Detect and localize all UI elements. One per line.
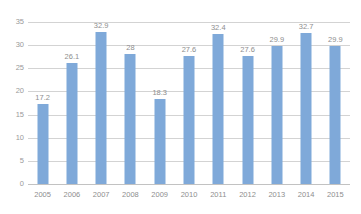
bar-slot: [28, 22, 57, 184]
plot-area: 17.226.132.92818.327.632.427.629.932.729…: [28, 22, 350, 184]
bar[interactable]: [154, 99, 165, 184]
y-axis-tick-label: 15: [4, 111, 24, 119]
bar-slot: [262, 22, 291, 184]
x-axis-tick-label: 2007: [87, 190, 116, 200]
bar-value-label: 29.9: [315, 36, 355, 44]
bar-slot: [291, 22, 320, 184]
x-axis-tick-label: 2010: [174, 190, 203, 200]
bar-slot: [57, 22, 86, 184]
x-axis-tick-label: 2009: [145, 190, 174, 200]
bar[interactable]: [37, 104, 48, 184]
chart-title: [0, 0, 361, 4]
y-axis-tick-label: 20: [4, 87, 24, 95]
bar[interactable]: [183, 56, 194, 184]
bar[interactable]: [242, 56, 253, 184]
y-axis-tick-label: 0: [4, 180, 24, 188]
x-axis-tick-label: 2015: [321, 190, 350, 200]
x-axis-tick-label: 2005: [28, 190, 57, 200]
bar[interactable]: [125, 54, 136, 184]
bar-chart: 05101520253035 17.226.132.92818.327.632.…: [0, 0, 361, 214]
x-axis-tick-label: 2013: [262, 190, 291, 200]
bar[interactable]: [330, 46, 341, 184]
y-axis-tick-label: 10: [4, 134, 24, 142]
bar[interactable]: [271, 46, 282, 184]
bar-slot: [321, 22, 350, 184]
bar[interactable]: [213, 34, 224, 184]
x-axis-tick-label: 2012: [233, 190, 262, 200]
y-axis-tick-label: 35: [4, 18, 24, 26]
x-axis-tick-label: 2011: [204, 190, 233, 200]
x-axis-tick-label: 2008: [116, 190, 145, 200]
bar[interactable]: [301, 33, 312, 184]
y-axis-tick-label: 5: [4, 157, 24, 165]
y-axis-tick-label: 30: [4, 41, 24, 49]
y-axis-tick-label: 25: [4, 64, 24, 72]
gridline: [28, 184, 350, 185]
bar[interactable]: [66, 63, 77, 184]
x-axis-tick-label: 2006: [57, 190, 86, 200]
x-axis-tick-label: 2014: [291, 190, 320, 200]
bar[interactable]: [96, 32, 107, 184]
x-axis: 2005200620072008200920102011201220132014…: [28, 190, 350, 202]
